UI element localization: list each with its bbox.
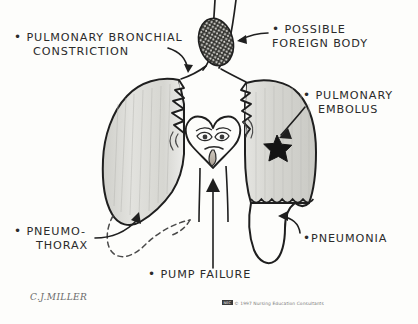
copyright-notice: NEC© 1997 Nursing Education Consultants (222, 300, 324, 306)
heart-tongue (209, 150, 216, 166)
label-bullet: • (272, 22, 280, 36)
label-pulmonary-embolus: • PULMONARYEMBOLUS (303, 88, 393, 117)
label-possible-foreign-body: • POSSIBLEFOREIGN BODY (272, 22, 368, 51)
left-lung (103, 79, 184, 225)
label-bullet: • (303, 231, 311, 245)
label-bullet: • (148, 267, 156, 281)
label-pulmonary-bronchial-constriction: • PULMONARY BRONCHIALCONSTRICTION (14, 30, 183, 59)
label-pump-failure: • PUMP FAILURE (148, 267, 251, 282)
label-bullet: • (303, 88, 311, 102)
label-bullet: • (14, 224, 22, 238)
illustration-figure: • PULMONARY BRONCHIALCONSTRICTION • POSS… (0, 0, 418, 324)
label-pneumothorax: • PNEUMO-THORAX (14, 224, 88, 253)
publisher-logo: NEC (222, 300, 233, 305)
label-pneumonia: •PNEUMONIA (303, 231, 387, 246)
label-bullet: • (14, 30, 22, 44)
foreign-body-blob (194, 15, 239, 70)
artist-signature: C.J.MILLER (30, 292, 87, 302)
